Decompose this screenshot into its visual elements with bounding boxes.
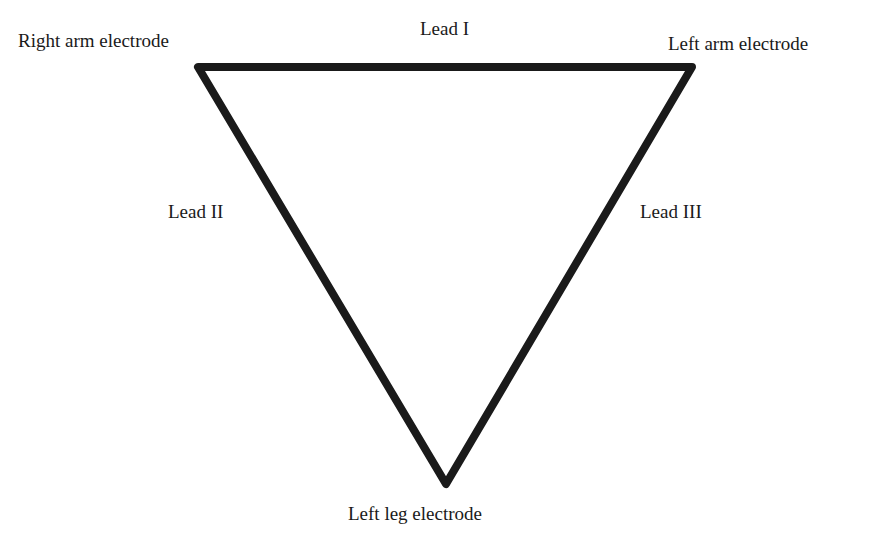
triangle-diagram: [0, 0, 876, 543]
left-leg-electrode-label: Left leg electrode: [348, 503, 482, 525]
lead-2-label: Lead II: [168, 201, 223, 223]
lead-1-label: Lead I: [420, 18, 469, 40]
einthoven-triangle: [198, 67, 692, 484]
left-arm-electrode-label: Left arm electrode: [668, 33, 808, 55]
right-arm-electrode-label: Right arm electrode: [18, 30, 169, 52]
lead-3-label: Lead III: [640, 201, 702, 223]
